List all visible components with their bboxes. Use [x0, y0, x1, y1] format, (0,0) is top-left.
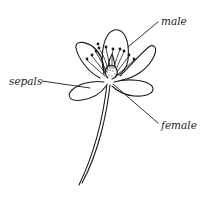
label-sepals: sepals	[9, 76, 42, 87]
stem	[79, 84, 107, 185]
label-female: female	[161, 120, 197, 131]
stamens	[87, 48, 134, 76]
sepal-left	[69, 81, 106, 100]
leader-male	[128, 22, 158, 47]
label-male: male	[161, 16, 187, 27]
leader-sepals	[42, 81, 90, 88]
leader-female	[113, 84, 158, 123]
flower-diagram	[0, 0, 203, 197]
